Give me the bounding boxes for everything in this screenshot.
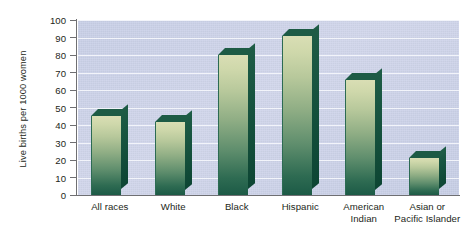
y-tick-60 [70,90,76,91]
y-tick-80 [70,55,76,56]
y-tick-100 [70,20,76,21]
y-axis-title: Live births per 1000 women [18,14,28,204]
x-label-asian-or-pacific-islander: Asian orPacific Islander [388,201,468,224]
y-axis-tick-labels: 0102030405060708090100 [22,0,66,244]
y-tick-label-50: 50 [26,102,66,113]
bar-black [218,55,248,195]
y-tick-70 [70,72,76,73]
y-tick-0 [70,195,76,196]
bar-hispanic [282,36,312,195]
plot-area [78,20,459,195]
y-tick-label-30: 30 [26,137,66,148]
bar-white [155,122,185,196]
gridline-100 [78,20,459,21]
bar-side-face [248,43,255,189]
y-tick-label-0: 0 [26,190,66,201]
bar-top-face [282,29,319,36]
bar-front-face [218,55,248,195]
y-tick-label-40: 40 [26,120,66,131]
bar-side-face [121,104,128,189]
bar-american-indian [345,80,375,196]
y-tick-90 [70,37,76,38]
bar-front-face [345,80,375,196]
x-label-line: Asian or [388,201,468,213]
y-tick-label-70: 70 [26,67,66,78]
y-tick-label-20: 20 [26,155,66,166]
bar-front-face [409,158,439,195]
bar-side-face [375,68,382,189]
bar-side-face [185,110,192,189]
bar-front-face [91,116,121,195]
y-tick-label-10: 10 [26,172,66,183]
y-tick-label-90: 90 [26,32,66,43]
y-axis-line [76,19,77,196]
bar-top-face [155,115,192,122]
bar-chart-figure: 0102030405060708090100 Live births per 1… [0,0,476,244]
gridline-80 [78,55,459,56]
x-label-line: Pacific Islander [388,213,468,225]
gridline-70 [78,73,459,74]
y-tick-label-60: 60 [26,85,66,96]
y-tick-10 [70,177,76,178]
gridline-90 [78,38,459,39]
gridline-20 [78,160,459,161]
y-tick-50 [70,107,76,108]
gridline-40 [78,125,459,126]
bar-side-face [312,24,319,189]
bar-asian-or-pacific-islander [409,158,439,195]
bar-front-face [155,122,185,196]
gridline-30 [78,143,459,144]
bar-front-face [282,36,312,195]
y-tick-label-80: 80 [26,50,66,61]
y-tick-20 [70,160,76,161]
y-tick-label-100: 100 [26,15,66,26]
bar-all-races [91,116,121,195]
x-axis-line [76,195,460,196]
gridline-60 [78,90,459,91]
gridline-10 [78,178,459,179]
y-tick-30 [70,142,76,143]
gridline-50 [78,108,459,109]
y-tick-40 [70,125,76,126]
